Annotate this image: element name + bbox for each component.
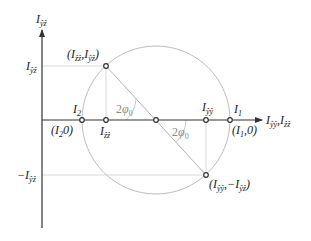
- I2-coord-label: (I20): [51, 123, 73, 139]
- angle-label-lower: 2φ0: [172, 125, 189, 141]
- I1-label: I1: [233, 102, 242, 118]
- bottom-point-label: (Iŷŷ,−Iŷẑ): [209, 177, 250, 193]
- point-top: [104, 64, 109, 69]
- horizontal-axis-label: Iŷŷ,Iẑẑ: [265, 113, 291, 129]
- point-I1: [228, 118, 233, 123]
- vertical-axis-label: Iŷẑ: [35, 12, 48, 28]
- pos-Iyz-label: Iŷẑ: [25, 59, 38, 75]
- point-center: [154, 118, 159, 123]
- top-point-label: (Iẑẑ,Iŷẑ): [67, 47, 99, 63]
- mohr-circle-diagram: Iŷẑ Iŷŷ,Iẑẑ (Iẑẑ,Iŷẑ) (Iŷŷ,−Iŷẑ) Iŷẑ −Iŷ…: [0, 0, 311, 241]
- point-Izz: [104, 118, 109, 123]
- point-bottom: [204, 173, 209, 178]
- Iyy-label: Iŷŷ: [201, 100, 214, 116]
- point-I2: [80, 118, 85, 123]
- Izz-label: Iẑẑ: [99, 124, 111, 140]
- point-Iyy: [204, 118, 209, 123]
- I1-coord-label: (I1,0): [232, 123, 257, 139]
- angle-label-upper: 2φ0: [116, 102, 133, 118]
- I2-label: I2: [72, 102, 81, 118]
- neg-Iyz-label: −Iŷẑ: [17, 168, 37, 184]
